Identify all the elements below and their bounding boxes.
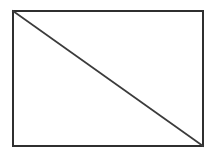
- figure-canvas: [0, 0, 213, 156]
- rectangle-with-diagonal-figure: [0, 0, 213, 156]
